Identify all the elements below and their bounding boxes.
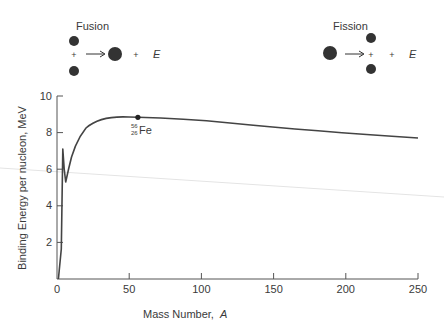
x-axis [57,273,418,279]
x-tick-100: 100 [192,283,210,295]
fission-arrow-icon [345,51,364,57]
fusion-energy-label: E [153,48,161,60]
fission-large-nucleus [323,46,337,60]
y-axis-title: Binding Energy per nucleon, MeV [16,105,28,270]
fission-small-nucleus-bottom [366,64,376,74]
x-tick-250: 250 [409,283,427,295]
y-tick-8: 8 [46,126,52,138]
x-tick-labels: 0 50 100 150 200 250 [54,283,427,295]
fission-diagram: Fission + + E [323,20,417,74]
fusion-small-nucleus-bottom [69,66,79,76]
x-tick-150: 150 [264,283,282,295]
fission-plus-1: + [368,50,373,60]
fission-title: Fission [333,20,368,32]
y-tick-4: 4 [46,199,52,211]
binding-energy-chart: Fusion + + E Fission + + E 2 4 [0,0,444,334]
y-tick-labels: 2 4 6 8 10 [40,90,52,248]
y-tick-10: 10 [40,90,52,102]
fusion-plus-1: + [71,50,76,60]
svg-text:26: 26 [131,130,138,136]
fe56-label: 56 26 Fe [131,123,152,136]
x-tick-0: 0 [54,283,60,295]
fe56-marker [135,115,140,120]
binding-energy-curve [58,117,418,279]
x-tick-200: 200 [337,283,355,295]
fusion-diagram: Fusion + + E [69,20,161,76]
fission-plus-2: + [389,50,394,60]
svg-text:56: 56 [131,123,138,129]
fusion-plus-2: + [133,50,138,60]
scan-artifact-line [0,168,444,197]
y-tick-6: 6 [46,163,52,175]
x-axis-title: Mass Number,A [143,308,227,320]
y-tick-2: 2 [46,236,52,248]
fusion-title: Fusion [76,20,109,32]
fusion-small-nucleus-top [69,36,79,46]
x-tick-50: 50 [123,283,135,295]
fusion-large-nucleus [108,47,122,61]
fission-energy-label: E [409,48,417,60]
fission-small-nucleus-top [366,33,376,43]
svg-text:Fe: Fe [139,124,152,136]
fusion-arrow-icon [86,51,105,57]
